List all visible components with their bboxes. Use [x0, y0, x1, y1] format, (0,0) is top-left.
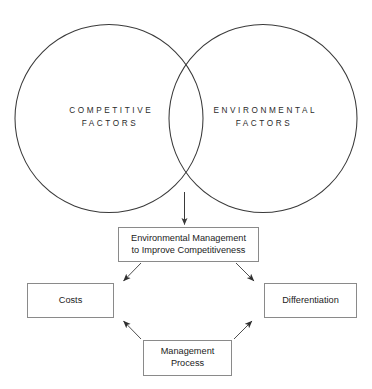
- connector-core-to-costs: [124, 263, 142, 281]
- diagram-canvas: COMPETITIVE FACTORS ENVIRONMENTAL FACTOR…: [0, 0, 372, 389]
- box-environmental-management[interactable]: Environmental Management to Improve Comp…: [118, 227, 259, 262]
- connector-management-process-to-differentiation: [234, 321, 252, 339]
- box-differentiation[interactable]: Differentiation: [264, 283, 357, 318]
- venn-circle-environmental: [169, 25, 357, 213]
- diagram-vector-layer: [0, 0, 372, 389]
- box-costs[interactable]: Costs: [27, 283, 114, 318]
- box-management-process[interactable]: Management Process: [143, 340, 232, 376]
- connector-core-to-differentiation: [236, 263, 254, 281]
- venn-circle-competitive: [15, 25, 203, 213]
- connector-management-process-to-costs: [124, 321, 142, 339]
